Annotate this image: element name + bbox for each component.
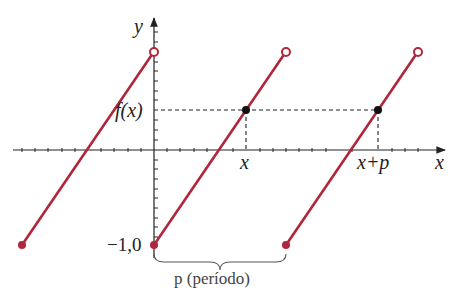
y-axis-label: y [132,15,143,38]
open-endpoint [282,48,290,56]
point-xp-fxp [374,106,382,114]
closed-endpoint [150,241,158,249]
closed-endpoints [18,241,290,249]
fx-label: f(x) [115,99,143,122]
closed-endpoint [282,241,290,249]
open-endpoint [150,48,158,56]
dashed-guides [154,110,378,150]
closed-endpoint [18,241,26,249]
period-brace [154,254,286,270]
x-axis-label: x [434,151,444,173]
x-plus-p-label: x+p [356,151,389,174]
point-x-fx [242,106,250,114]
x-point-label: x [239,151,249,173]
open-endpoints [150,48,422,56]
y-min-label: −1,0 [107,234,141,255]
periodic-function-diagram: y x f(x) x x+p −1,0 p (período) [0,0,461,308]
open-endpoint [414,48,422,56]
period-label: p (período) [174,269,250,288]
